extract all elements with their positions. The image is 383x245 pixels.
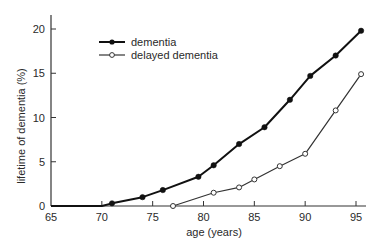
filled-circle-marker-icon (196, 174, 201, 179)
open-circle-marker-icon (211, 190, 216, 195)
y-tick-label: 5 (39, 156, 45, 168)
x-tick-label: 85 (248, 211, 260, 223)
filled-circle-marker-icon (262, 125, 267, 130)
y-tick-label: 15 (33, 67, 45, 79)
x-tick-label: 70 (96, 211, 108, 223)
legend-item-dementia: dementia (99, 36, 177, 48)
axes: 05101520 65707580859095 (33, 15, 366, 223)
y-tick-label: 10 (33, 112, 45, 124)
legend-label: dementia (131, 36, 177, 48)
filled-circle-marker-icon (211, 163, 216, 168)
filled-circle-marker-icon (333, 53, 338, 58)
open-circle-marker-icon (237, 185, 242, 190)
open-circle-marker-icon (333, 108, 338, 113)
legend-item-delayed-dementia: delayed dementia (99, 49, 219, 61)
filled-circle-marker-icon (109, 39, 114, 44)
x-axis-ticks: 65707580859095 (45, 201, 362, 223)
y-tick-label: 20 (33, 23, 45, 35)
x-tick-label: 65 (45, 211, 57, 223)
filled-circle-marker-icon (109, 201, 114, 206)
open-circle-marker-icon (359, 72, 364, 77)
filled-circle-marker-icon (308, 73, 313, 78)
y-axis-label: lifetime of dementia (%) (15, 68, 27, 184)
open-circle-marker-icon (252, 177, 257, 182)
x-tick-label: 80 (197, 211, 209, 223)
open-circle-marker-icon (110, 53, 115, 58)
open-circle-marker-icon (277, 164, 282, 169)
line-chart: 05101520 65707580859095 lifetime of deme… (0, 0, 383, 245)
filled-circle-marker-icon (236, 141, 241, 146)
x-tick-label: 75 (147, 211, 159, 223)
legend-label: delayed dementia (131, 49, 219, 61)
legend: dementia delayed dementia (99, 36, 219, 61)
y-axis-ticks: 05101520 (33, 23, 56, 212)
x-axis-label: age (years) (186, 226, 242, 238)
filled-circle-marker-icon (160, 187, 165, 192)
series-delayed-dementia (171, 72, 364, 209)
filled-circle-marker-icon (140, 194, 145, 199)
x-tick-label: 90 (299, 211, 311, 223)
open-circle-marker-icon (171, 204, 176, 209)
open-circle-marker-icon (303, 151, 308, 156)
filled-circle-marker-icon (287, 97, 292, 102)
filled-circle-marker-icon (358, 28, 363, 33)
x-tick-label: 95 (350, 211, 362, 223)
